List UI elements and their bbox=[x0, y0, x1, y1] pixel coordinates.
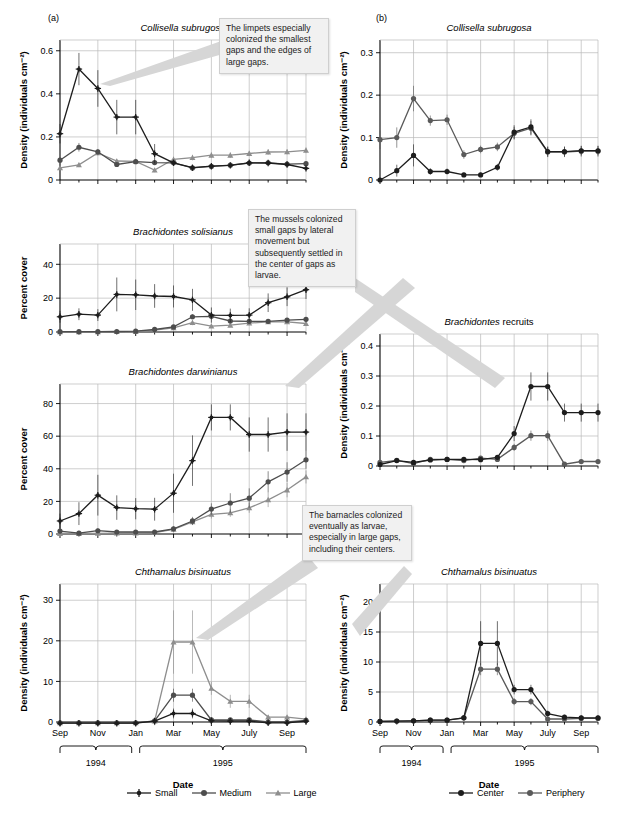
chthamalus-left-xtick: Sep bbox=[52, 728, 68, 738]
brachidontes-recruits-ytick: 0.4 bbox=[360, 341, 373, 351]
chthamalus-right-svg: Chthamalus bisinuatus05101520Density (in… bbox=[334, 562, 606, 740]
collisella-right-series-periphery bbox=[377, 86, 600, 159]
brachidontes-darwinianus-ytick: 0 bbox=[48, 529, 53, 539]
collisella-right-ylabel: Density (individuals cm⁻²) bbox=[338, 51, 349, 168]
brachidontes-darwinianus-svg: Brachidontes darwinianus020406080Percent… bbox=[14, 362, 314, 552]
legend-marker-periphery bbox=[517, 788, 543, 798]
collisella-right-svg: Collisella subrugosa00.10.20.3Density (i… bbox=[334, 18, 606, 208]
chart-brachidontes-darwinianus: Brachidontes darwinianus020406080Percent… bbox=[14, 362, 314, 552]
collisella-left-ytick: 0.6 bbox=[40, 46, 53, 56]
chthamalus-right-ytick: 0 bbox=[368, 717, 373, 727]
chthamalus-right-title: Chthamalus bisinuatus bbox=[441, 566, 537, 577]
legend-item-periphery[interactable]: Periphery bbox=[517, 788, 585, 798]
brachidontes-darwinianus-ytick: 40 bbox=[43, 464, 53, 474]
brachidontes-recruits-ytick: 0.3 bbox=[360, 371, 373, 381]
chthamalus-right-xtick: Sep bbox=[573, 728, 589, 738]
chthamalus-right-xtick: Jan bbox=[440, 728, 455, 738]
brachidontes-solisianus-ytick: 0 bbox=[48, 327, 53, 337]
brachidontes-solisianus-series-medium bbox=[57, 313, 308, 334]
brachidontes-recruits-series-center bbox=[377, 372, 600, 467]
collisella-left-ytick: 0.4 bbox=[40, 89, 53, 99]
legend-marker-small bbox=[126, 788, 152, 798]
brachidontes-solisianus-title: Brachidontes solisianus bbox=[133, 226, 233, 237]
chthamalus-right-ytick: 10 bbox=[363, 657, 373, 667]
brachidontes-darwinianus-ytick: 20 bbox=[43, 497, 53, 507]
legend-marker-large bbox=[265, 788, 291, 798]
legend-marker-medium bbox=[191, 788, 217, 798]
brachidontes-solisianus-ytick: 40 bbox=[43, 260, 53, 270]
brachidontes-solisianus-ylabel: Percent cover bbox=[18, 256, 29, 319]
chthamalus-left-ylabel: Density (individuals cm⁻²) bbox=[18, 594, 29, 711]
collisella-left-ylabel: Density (individuals cm⁻²) bbox=[18, 51, 29, 168]
collisella-left-title: Collisella subrugosa bbox=[140, 22, 225, 33]
chthamalus-right-xtick: Sep bbox=[372, 728, 388, 738]
date-axis-left: 19941995Date bbox=[14, 740, 314, 794]
brachidontes-darwinianus-title: Brachidontes darwinianus bbox=[129, 366, 238, 377]
legend-label-small: Small bbox=[155, 788, 178, 798]
chthamalus-right-xtick: May bbox=[506, 728, 524, 738]
chthamalus-left-xtick: July bbox=[241, 728, 258, 738]
year-label-1995: 1995 bbox=[213, 758, 233, 768]
chthamalus-right-xtick: Nov bbox=[406, 728, 423, 738]
chthamalus-right-ytick: 15 bbox=[363, 627, 373, 637]
collisella-right-ytick: 0.3 bbox=[360, 48, 373, 58]
legend-label-center: Center bbox=[477, 788, 504, 798]
chart-chthamalus-left: Chthamalus bisinuatus0102030Density (ind… bbox=[14, 562, 314, 740]
collisella-left-ytick: 0 bbox=[48, 175, 53, 185]
chthamalus-left-ytick: 10 bbox=[43, 677, 53, 687]
brachidontes-darwinianus-ytick: 80 bbox=[43, 399, 53, 409]
year-label-1995: 1995 bbox=[515, 758, 535, 768]
position-legend: Center Periphery bbox=[448, 788, 585, 798]
chthamalus-left-xtick: May bbox=[203, 728, 221, 738]
brachidontes-recruits-ylabel: Density (individuals cm⁻²) bbox=[338, 341, 349, 458]
brachidontes-recruits-ytick: 0.1 bbox=[360, 431, 373, 441]
legend-item-medium[interactable]: Medium bbox=[191, 788, 252, 798]
figure-root: The limpets especially colonized the sma… bbox=[0, 0, 622, 814]
chthamalus-left-xtick: Jan bbox=[128, 728, 143, 738]
collisella-left-series-medium bbox=[57, 143, 308, 171]
legend-label-periphery: Periphery bbox=[546, 788, 585, 798]
chthamalus-left-xtick: Mar bbox=[166, 728, 182, 738]
size-legend: Small Medium Large bbox=[126, 788, 317, 798]
chart-chthamalus-right: Chthamalus bisinuatus05101520Density (in… bbox=[334, 562, 606, 740]
chthamalus-left-series-large bbox=[57, 610, 309, 725]
collisella-right-ytick: 0.2 bbox=[360, 90, 373, 100]
chthamalus-right-xtick: July bbox=[540, 728, 557, 738]
brachidontes-darwinianus-series-small bbox=[57, 404, 309, 528]
chthamalus-right-ylabel: Density (individuals cm⁻²) bbox=[338, 594, 349, 711]
legend-item-center[interactable]: Center bbox=[448, 788, 504, 798]
chthamalus-left-series-medium bbox=[57, 689, 308, 726]
chart-collisella-right: Collisella subrugosa00.10.20.3Density (i… bbox=[334, 18, 606, 208]
legend-label-medium: Medium bbox=[220, 788, 252, 798]
callout-barnacles: The barnacles colonized eventually as la… bbox=[302, 505, 412, 561]
date-axis-left: 19941995Date bbox=[14, 740, 314, 794]
chthamalus-left-svg: Chthamalus bisinuatus0102030Density (ind… bbox=[14, 562, 314, 740]
legend-marker-center bbox=[448, 788, 474, 798]
callout-mussels: The mussels colonized small gaps by late… bbox=[248, 209, 356, 287]
brachidontes-recruits-ytick: 0.2 bbox=[360, 401, 373, 411]
year-label-1994: 1994 bbox=[86, 758, 106, 768]
year-label-1994: 1994 bbox=[402, 758, 422, 768]
date-axis-right: 19941995Date bbox=[334, 740, 606, 794]
chthamalus-right-ytick: 20 bbox=[363, 597, 373, 607]
chthamalus-right-ytick: 5 bbox=[368, 687, 373, 697]
collisella-left-ytick: 0.2 bbox=[40, 132, 53, 142]
brachidontes-darwinianus-ytick: 60 bbox=[43, 431, 53, 441]
chthamalus-left-ytick: 0 bbox=[48, 717, 53, 727]
date-axis-right: 19941995Date bbox=[334, 740, 606, 794]
callout-limpets: The limpets especially colonized the sma… bbox=[219, 18, 329, 74]
legend-label-large: Large bbox=[294, 788, 317, 798]
chthamalus-left-xtick: Nov bbox=[90, 728, 107, 738]
collisella-right-ytick: 0.1 bbox=[360, 133, 373, 143]
brachidontes-solisianus-ytick: 20 bbox=[43, 293, 53, 303]
chart-brachidontes-recruits: Brachidontes recruits00.10.20.30.4Densit… bbox=[334, 312, 606, 484]
collisella-right-series-center bbox=[377, 119, 600, 182]
collisella-right-ytick: 0 bbox=[368, 175, 373, 185]
brachidontes-recruits-svg: Brachidontes recruits00.10.20.30.4Densit… bbox=[334, 312, 606, 484]
legend-item-large[interactable]: Large bbox=[265, 788, 317, 798]
collisella-right-title: Collisella subrugosa bbox=[446, 22, 531, 33]
chthamalus-right-xtick: Mar bbox=[473, 728, 489, 738]
chthamalus-left-ytick: 20 bbox=[43, 636, 53, 646]
chthamalus-left-ytick: 30 bbox=[43, 595, 53, 605]
legend-item-small[interactable]: Small bbox=[126, 788, 178, 798]
